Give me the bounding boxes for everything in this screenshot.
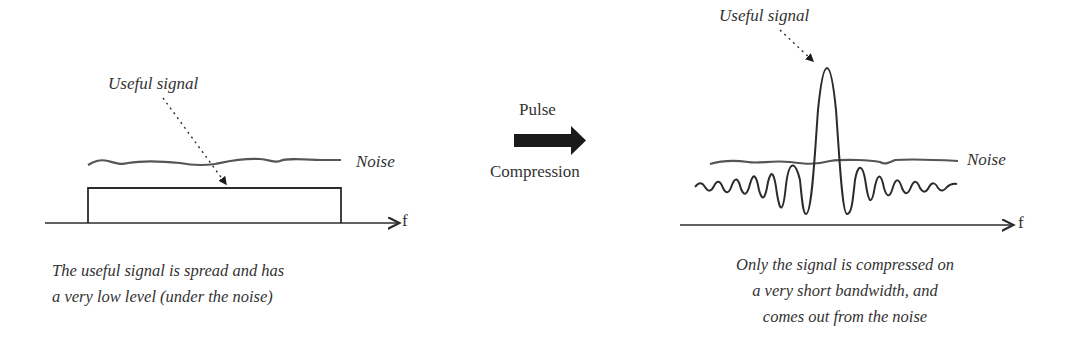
- right-caption-line-1: Only the signal is compressed on: [700, 252, 990, 278]
- left-useful-signal-label: Useful signal: [108, 74, 198, 94]
- right-noise-label: Noise: [967, 150, 1006, 170]
- right-caption: Only the signal is compressed on a very …: [700, 252, 990, 330]
- left-caption-line-2: a very low level (under the noise): [52, 284, 284, 310]
- left-caption: The useful signal is spread and has a ve…: [52, 258, 284, 310]
- left-noise-label: Noise: [356, 152, 395, 172]
- right-pointer-dotted-arrow: [780, 30, 813, 61]
- right-caption-line-3: comes out from the noise: [700, 304, 990, 330]
- right-axis-label: f: [1018, 213, 1024, 233]
- left-axis-label: f: [402, 211, 408, 231]
- right-spectrum: [680, 30, 1012, 225]
- right-caption-line-2: a very short bandwidth, and: [700, 278, 990, 304]
- left-noise-line: [88, 159, 341, 165]
- right-useful-signal-label: Useful signal: [719, 6, 809, 26]
- left-pointer-dotted-arrow: [163, 98, 226, 184]
- right-noise-line: [710, 160, 958, 164]
- left-spread-signal-rect: [88, 188, 341, 223]
- right-compressed-sinc-pulse: [695, 68, 957, 214]
- right-arrow-icon: [514, 126, 586, 155]
- pulse-label: Pulse: [519, 100, 556, 120]
- compression-label: Compression: [490, 162, 580, 182]
- left-spectrum: [45, 98, 398, 223]
- left-caption-line-1: The useful signal is spread and has: [52, 258, 284, 284]
